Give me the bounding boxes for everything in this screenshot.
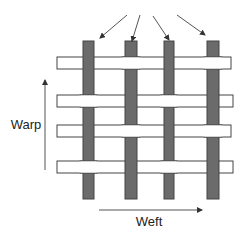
weft-layer-over	[79, 57, 223, 173]
pointer-arrows	[100, 15, 205, 41]
weft-over-crossing-fill	[121, 58, 141, 69]
weft-label: Weft	[136, 214, 163, 229]
weft-over-crossing-fill	[203, 58, 223, 69]
pointer-arrow-icon	[153, 16, 169, 40]
pointer-arrow-icon	[177, 15, 205, 35]
pointer-arrow-icon	[100, 15, 127, 38]
weft-over-crossing-fill	[160, 162, 178, 173]
pointer-arrow-icon	[132, 15, 140, 41]
warp-label: Warp	[11, 117, 42, 132]
warp-yarn-1	[83, 41, 94, 199]
weft-over-crossing-fill	[203, 126, 223, 137]
weft-over-crossing-fill	[160, 96, 178, 107]
weft-over-crossing-fill	[79, 96, 98, 107]
weft-over-crossing-fill	[79, 162, 98, 173]
weft-over-crossing-fill	[121, 126, 141, 137]
warp-yarn-3	[164, 41, 174, 199]
